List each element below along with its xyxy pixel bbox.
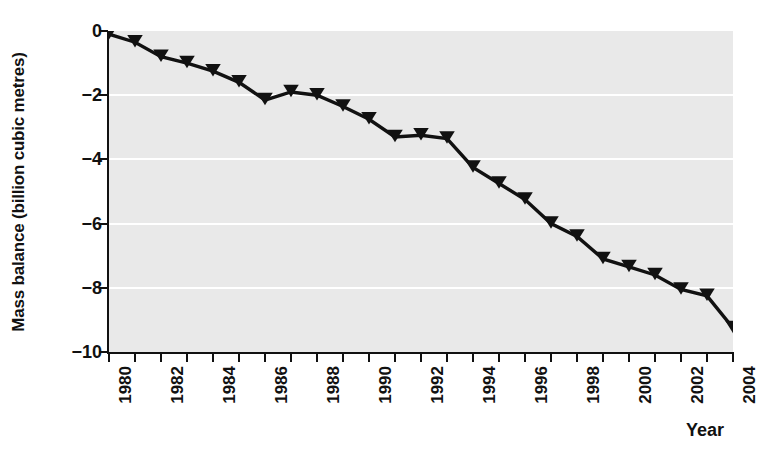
x-axis-tick-label: 1980 — [100, 366, 118, 424]
x-axis-tick-mark — [368, 354, 370, 362]
y-axis-tick-mark — [99, 94, 108, 96]
x-axis-tick-mark — [420, 354, 422, 362]
x-axis-tick-mark — [290, 354, 292, 362]
x-axis-tick-label: 1988 — [308, 366, 326, 424]
x-axis-tick-mark — [108, 354, 110, 362]
x-axis-tick-mark — [212, 354, 214, 362]
y-axis-tick-labels: 0−2−4−6−8−10 — [36, 0, 102, 450]
x-axis-tick-label: 2000 — [620, 366, 638, 424]
y-axis-tick-mark — [99, 351, 108, 353]
y-axis-tick-label: −10 — [40, 342, 102, 363]
y-axis-tick-mark — [99, 158, 108, 160]
data-series-mass-balance — [109, 31, 733, 352]
x-axis-tick-mark — [576, 354, 578, 362]
plot-area — [109, 31, 733, 352]
data-point-marker — [725, 321, 733, 334]
y-axis-tick-mark — [99, 223, 108, 225]
y-axis-tick-mark — [99, 287, 108, 289]
x-axis-tick-mark — [186, 354, 188, 362]
x-axis-tick-mark — [264, 354, 266, 362]
x-axis-tick-mark — [550, 354, 552, 362]
data-point-marker — [673, 282, 689, 295]
y-axis-title-text: Mass balance (billion cubic metres) — [9, 52, 29, 331]
x-axis-tick-label: 1996 — [516, 366, 534, 424]
x-axis-tick-mark — [160, 354, 162, 362]
x-axis-tick-mark — [732, 354, 734, 362]
y-axis-tick-label: 0 — [40, 21, 102, 42]
y-axis-title: Mass balance (billion cubic metres) — [2, 31, 36, 352]
x-axis-tick-label: 2002 — [672, 366, 690, 424]
x-axis-tick-label: 2004 — [724, 366, 742, 424]
x-axis-tick-mark — [654, 354, 656, 362]
x-axis-tick-mark — [316, 354, 318, 362]
x-axis-tick-label: 1994 — [464, 366, 482, 424]
x-axis-tick-mark — [524, 354, 526, 362]
x-axis-tick-mark — [472, 354, 474, 362]
y-axis-tick-label: −6 — [40, 213, 102, 234]
y-axis-tick-mark — [99, 30, 108, 32]
data-point-marker — [153, 49, 169, 62]
x-axis-tick-mark — [706, 354, 708, 362]
x-axis-tick-mark — [446, 354, 448, 362]
x-axis-tick-mark — [342, 354, 344, 362]
y-axis-tick-label: −4 — [40, 149, 102, 170]
series-markers — [109, 31, 733, 333]
x-axis-tick-label: 1990 — [360, 366, 378, 424]
x-axis-tick-mark — [628, 354, 630, 362]
x-axis-title: Year — [686, 420, 724, 441]
x-axis-tick-label: 1998 — [568, 366, 586, 424]
x-axis-tick-mark — [680, 354, 682, 362]
x-axis-tick-label: 1992 — [412, 366, 430, 424]
y-axis-tick-label: −8 — [40, 277, 102, 298]
x-axis-tick-mark — [134, 354, 136, 362]
x-axis-tick-mark — [394, 354, 396, 362]
x-axis-tick-mark — [498, 354, 500, 362]
x-axis-tick-label: 1986 — [256, 366, 274, 424]
series-line — [109, 34, 733, 328]
x-axis-tick-label: 1984 — [204, 366, 222, 424]
chart-figure: Mass balance (billion cubic metres) 0−2−… — [0, 0, 764, 450]
x-axis-tick-mark — [238, 354, 240, 362]
y-axis-tick-label: −2 — [40, 85, 102, 106]
x-axis-tick-label: 1982 — [152, 366, 170, 424]
x-axis-tick-mark — [602, 354, 604, 362]
